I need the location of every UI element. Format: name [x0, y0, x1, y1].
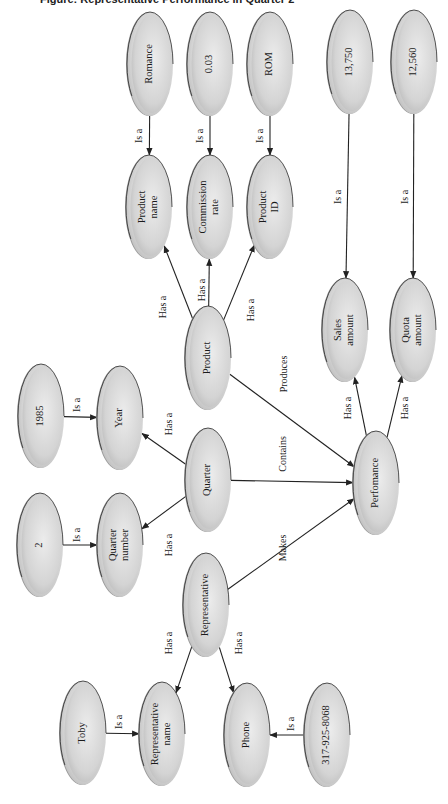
edge-label: Is a — [399, 189, 410, 204]
node-rate-value: 0.03 — [186, 12, 233, 116]
edge-representative-to-phone: Has a — [219, 631, 244, 692]
edge-label: Has a — [233, 631, 244, 654]
edge-arrow — [176, 646, 192, 693]
edge-arrow — [142, 496, 186, 529]
node-label: Toby — [76, 722, 87, 744]
node-label: 12,560 — [407, 48, 418, 77]
node-label: 2 — [33, 542, 44, 547]
node-label: ROM — [263, 51, 274, 76]
node-label: 0.03 — [203, 55, 214, 73]
edge-arrow — [64, 417, 97, 418]
edge-label: Is a — [113, 714, 124, 729]
edge-label: Produces — [278, 356, 289, 393]
edge-label: Has a — [342, 396, 353, 419]
edge-product-to-product-name: Has a — [157, 246, 192, 319]
node-label: Quarter — [107, 528, 118, 561]
edge-label: Is a — [332, 189, 343, 204]
edge-rep-name-value-to-representative-name: Is a — [106, 714, 139, 733]
edge-phone-value-to-phone: Is a — [270, 716, 304, 735]
node-performance: Perfomance — [352, 431, 399, 535]
edge-label: Is a — [71, 397, 82, 412]
node-quarter: Quarter — [184, 428, 231, 532]
node-quota-value: 12,560 — [390, 10, 437, 114]
node-label: name — [148, 195, 159, 218]
semantic-network-diagram: Is aIs aIs aIs aIs aHas aHas aHas aProdu… — [0, 0, 448, 804]
edge-label: Is a — [71, 527, 82, 542]
node-rep-name-value: Toby — [59, 681, 106, 785]
node-label: Quarter — [201, 463, 212, 496]
edge-label: Has a — [163, 533, 174, 556]
node-label: Sales — [332, 319, 343, 341]
edge-sales-value-to-sales-amount: Is a — [332, 114, 349, 278]
edge-label: Has a — [157, 295, 168, 318]
edge-arrow — [231, 480, 353, 482]
node-label: 13,750 — [343, 48, 354, 77]
node-quarter-number: Quarternumber — [96, 493, 143, 597]
node-year-value: 1985 — [17, 364, 64, 468]
node-label: Product — [201, 342, 212, 375]
node-product-name: Productname — [125, 155, 172, 259]
node-label: number — [119, 528, 130, 561]
node-product: Product — [184, 306, 231, 410]
node-label: ID — [269, 201, 280, 212]
node-label: Representative — [149, 702, 160, 765]
edge-quarter-to-year: Has a — [142, 412, 186, 464]
edge-label: Has a — [399, 396, 410, 419]
edge-performance-to-quota-amount: Has a — [387, 376, 410, 438]
edge-quarter-to-performance: Contains — [231, 436, 353, 482]
edge-product-to-commission-rate: Has a — [196, 259, 209, 306]
node-label: Product — [136, 191, 147, 224]
node-label: rate — [209, 199, 220, 215]
node-phone: Phone — [223, 683, 270, 787]
node-commission-rate: Commissionrate — [186, 155, 233, 259]
node-label: Quota — [400, 317, 411, 343]
node-romance: Romance — [126, 12, 173, 116]
node-label: Product — [257, 191, 268, 224]
edge-label: Has a — [245, 298, 256, 321]
edge-year-value-to-year: Is a — [64, 397, 97, 417]
node-year: Year — [96, 366, 143, 470]
node-label: 1985 — [34, 406, 45, 427]
edge-label: Is a — [254, 128, 265, 143]
node-sales-amount: Salesamount — [321, 278, 368, 382]
node-product-id: ProductID — [246, 155, 293, 259]
edge-label: Is a — [285, 716, 296, 731]
edge-rom-to-product-id: Is a — [254, 116, 270, 155]
edge-arrow — [209, 259, 210, 306]
node-label: Year — [113, 408, 124, 428]
edge-label: Contains — [277, 436, 288, 472]
edge-performance-to-sales-amount: Has a — [342, 377, 366, 435]
node-quota-amount: Quotaamount — [389, 278, 436, 382]
node-representative: Representative — [182, 553, 229, 657]
edge-arrow — [228, 499, 354, 590]
edge-romance-to-product-name: Is a — [133, 116, 149, 155]
edge-arrow — [346, 114, 349, 278]
node-label: Representative — [199, 573, 210, 636]
edge-label: Has a — [163, 631, 174, 654]
edge-arrow — [230, 374, 354, 466]
node-label: Commission — [197, 180, 208, 234]
edge-quarter-to-quarter-number: Has a — [142, 496, 186, 556]
node-phone-value: 317-925-8068 — [303, 683, 350, 787]
node-label: amount — [344, 314, 355, 346]
edge-label: Has a — [196, 278, 207, 301]
node-label: Romance — [143, 44, 154, 84]
edge-arrow — [355, 377, 367, 435]
node-representative-name: Representativename — [138, 682, 185, 786]
edge-label: Has a — [163, 412, 174, 435]
edge-label: Is a — [133, 128, 144, 143]
node-label: Perfomance — [369, 458, 380, 508]
edge-quarter-value-to-quarter-number: Is a — [63, 527, 97, 545]
node-label: amount — [412, 314, 423, 346]
edge-label: Makes — [277, 535, 288, 562]
node-label: 317-925-8068 — [320, 705, 331, 765]
edge-arrow — [164, 246, 193, 319]
edge-product-to-product-id: Has a — [224, 245, 257, 321]
node-sales-value: 13,750 — [326, 10, 373, 114]
edge-representative-to-performance: Makes — [228, 499, 354, 590]
node-quarter-value: 2 — [16, 493, 63, 597]
edge-arrow — [413, 114, 414, 278]
edge-label: Is a — [194, 128, 205, 143]
node-label: name — [161, 722, 172, 745]
edge-rate-value-to-commission-rate: Is a — [194, 116, 210, 155]
